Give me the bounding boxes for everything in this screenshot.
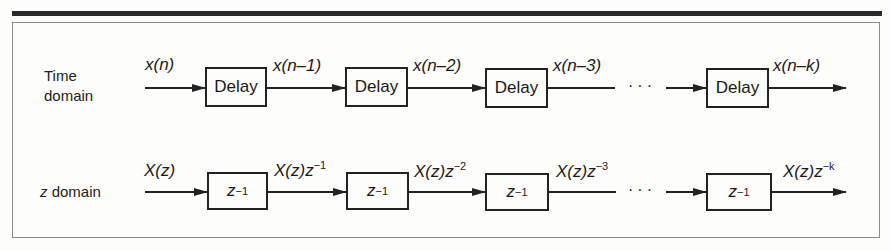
block-label: Delay: [355, 77, 398, 97]
signal-wires: [0, 0, 891, 251]
delay-block-k: Delay: [706, 68, 769, 108]
ellipsis: ···: [628, 181, 656, 199]
delay-block-1: Delay: [205, 67, 267, 107]
signal-text: X(z)z: [274, 161, 314, 180]
signal-exponent: −k: [823, 160, 835, 172]
block-label: Delay: [214, 77, 257, 97]
unit-delay-block-1: z−1: [207, 172, 268, 210]
signal-exponent: −3: [596, 160, 609, 172]
z-domain-label: z domain: [40, 182, 101, 202]
signal-text: x(n–3): [553, 56, 601, 75]
signal-x-n-2: x(n–2): [413, 56, 461, 76]
signal-text: X(z)z: [783, 162, 823, 181]
signal-text: x(n): [145, 55, 174, 74]
signal-x-n: x(n): [145, 55, 174, 75]
signal-text: X(z)z: [556, 162, 596, 181]
signal-x-n-1: x(n–1): [273, 56, 321, 76]
signal-text: X(z): [144, 161, 175, 180]
signal-X-z-3: X(z)z−3: [556, 162, 608, 182]
signal-X-z-1: X(z)z−1: [274, 161, 326, 181]
block-label: Delay: [716, 78, 759, 98]
delay-block-2: Delay: [345, 67, 408, 107]
ellipsis: ···: [628, 77, 656, 95]
signal-X-z-k: X(z)z−k: [783, 162, 835, 182]
signal-text: x(n–2): [413, 56, 461, 75]
signal-exponent: −1: [314, 159, 327, 171]
signal-X-z-2: X(z)z−2: [414, 162, 466, 182]
block-label: z: [227, 181, 236, 201]
block-label: z: [506, 182, 515, 202]
signal-text: x(n–k): [773, 56, 820, 75]
unit-delay-block-2: z−1: [346, 172, 409, 210]
delay-block-3: Delay: [485, 68, 548, 108]
label-line: Time: [44, 66, 93, 86]
block-label: Delay: [495, 78, 538, 98]
label-line: domain: [44, 86, 93, 106]
block-label: z: [367, 181, 376, 201]
signal-x-n-3: x(n–3): [553, 56, 601, 76]
signal-text: X(z)z: [414, 162, 454, 181]
signal-text: x(n–1): [273, 56, 321, 75]
unit-delay-block-3: z−1: [485, 173, 549, 211]
time-domain-label: Time domain: [44, 66, 93, 106]
label-line: z domain: [40, 182, 101, 202]
unit-delay-block-k: z−1: [706, 173, 772, 211]
signal-X-z: X(z): [144, 161, 175, 181]
block-label: z: [728, 182, 737, 202]
signal-x-n-k: x(n–k): [773, 56, 820, 76]
signal-exponent: −2: [454, 160, 467, 172]
